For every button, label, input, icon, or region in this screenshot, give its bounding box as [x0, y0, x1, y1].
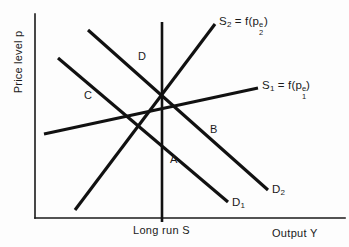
supply-1-p-superscript: e: [302, 85, 306, 93]
supply-1-p-subscript: 1: [302, 93, 306, 101]
price-axis-label: Price level p: [12, 22, 24, 102]
supply-1-subscript: 1: [270, 84, 274, 93]
demand-1-curve-label: D1: [232, 197, 245, 210]
demand-2-curve-label: D2: [272, 184, 285, 197]
supply-2-subscript: 2: [227, 20, 231, 29]
supply-2-equation: = f(p: [235, 15, 259, 27]
output-axis-label: Output Y: [272, 228, 318, 239]
supply-2-p-subscript: 2: [259, 29, 263, 37]
supply-1-close-paren: ): [306, 79, 310, 91]
point-label-a: A: [170, 154, 177, 165]
economics-diagram: Price level p Output Y Long run S S2 = f…: [0, 0, 349, 247]
supply-2-curve-label: S2 = f(p2e): [219, 16, 268, 29]
supply-2-close-paren: ): [264, 15, 268, 27]
demand-2-subscript: 2: [281, 188, 285, 197]
aggregate-demand-2-curve: [88, 30, 268, 190]
demand-1-subscript: 1: [241, 201, 245, 210]
supply-2-p-superscript: e: [259, 21, 263, 29]
diagram-canvas: [0, 0, 349, 247]
supply-2-symbol: S: [219, 15, 227, 27]
supply-1-curve-label: S1 = f(p1e): [262, 80, 310, 93]
supply-1-equation: = f(p: [278, 79, 302, 91]
point-label-d: D: [138, 51, 146, 62]
supply-1-symbol: S: [262, 79, 270, 91]
point-label-b: B: [210, 124, 217, 135]
demand-1-symbol: D: [232, 196, 241, 208]
point-label-c: C: [84, 90, 92, 101]
long-run-supply-label: Long run S: [133, 225, 190, 236]
demand-2-symbol: D: [272, 183, 281, 195]
